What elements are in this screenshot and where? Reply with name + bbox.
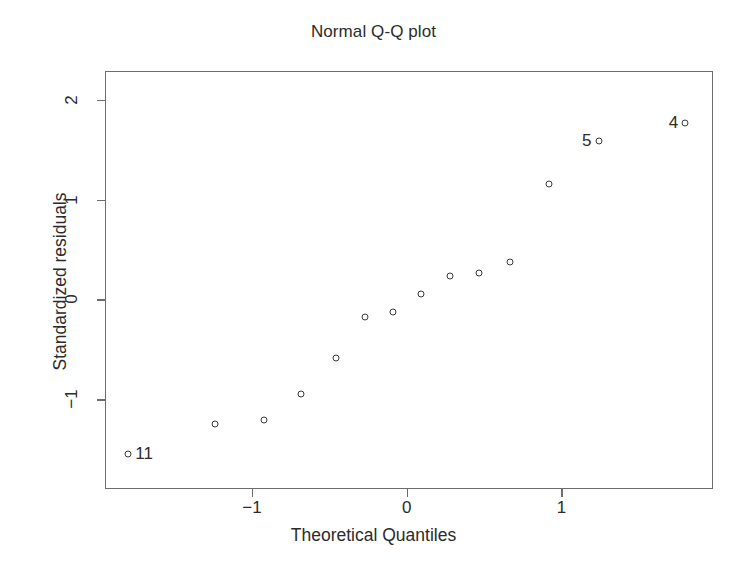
page-title: Normal Q-Q plot [0, 22, 747, 42]
x-tick-mark [252, 489, 253, 497]
data-point [682, 119, 689, 126]
qq-plot-figure: Normal Q-Q plot −101−1012 1154 Theoretic… [0, 0, 747, 572]
y-tick-mark [97, 200, 105, 201]
y-tick-label: 2 [62, 95, 82, 104]
data-point [507, 258, 514, 265]
y-tick-mark [97, 100, 105, 101]
x-tick-label: 0 [402, 498, 411, 518]
data-point [211, 421, 218, 428]
data-point-label: 4 [669, 113, 678, 133]
y-axis-title: Standardized residuals [50, 112, 71, 452]
x-tick-mark [561, 489, 562, 497]
data-point [261, 417, 268, 424]
data-point [546, 180, 553, 187]
data-point [125, 451, 132, 458]
data-point [476, 269, 483, 276]
data-point [332, 355, 339, 362]
x-tick-mark [407, 489, 408, 497]
data-point [446, 272, 453, 279]
data-point [595, 137, 602, 144]
data-point-label: 11 [135, 444, 153, 464]
x-tick-label: −1 [242, 498, 261, 518]
plot-frame [105, 71, 713, 489]
x-tick-label: 1 [557, 498, 566, 518]
y-tick-mark [97, 399, 105, 400]
data-point [361, 314, 368, 321]
y-tick-mark [97, 299, 105, 300]
data-point [417, 291, 424, 298]
data-point [389, 309, 396, 316]
x-axis-title: Theoretical Quantiles [0, 525, 747, 546]
data-point-label: 5 [582, 131, 591, 151]
data-point [298, 391, 305, 398]
